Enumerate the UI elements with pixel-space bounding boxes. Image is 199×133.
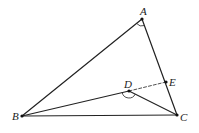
labels: ABCDE xyxy=(12,5,188,123)
triangle-diagram: ABCDE xyxy=(0,0,199,133)
segment-de xyxy=(129,82,166,91)
label-a: A xyxy=(139,5,147,17)
points xyxy=(20,17,178,117)
label-b: B xyxy=(12,110,19,122)
segments xyxy=(22,19,177,116)
segment-bc xyxy=(22,115,177,116)
point-c xyxy=(175,113,178,116)
label-e: E xyxy=(168,76,176,88)
point-b xyxy=(20,114,23,117)
label-d: D xyxy=(123,78,132,90)
point-e xyxy=(164,80,167,83)
point-a xyxy=(140,17,143,20)
label-c: C xyxy=(180,111,188,123)
